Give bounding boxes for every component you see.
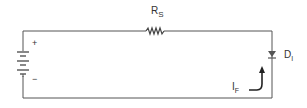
wire-top-right bbox=[164, 31, 272, 50]
current-arrow-head-icon bbox=[259, 66, 265, 73]
resistor-label: RS bbox=[151, 5, 164, 19]
wire-top-left bbox=[23, 31, 146, 51]
battery-symbol bbox=[17, 52, 29, 77]
current-arrow bbox=[249, 72, 262, 90]
diode-symbol bbox=[268, 50, 276, 60]
battery-positive-label: + bbox=[32, 38, 37, 48]
resistor-symbol bbox=[146, 28, 164, 34]
circuit-diagram: RS + − DI IF bbox=[0, 0, 307, 108]
current-label: IF bbox=[232, 81, 239, 94]
diode-label: DI bbox=[284, 49, 293, 62]
battery-negative-label: − bbox=[32, 74, 37, 84]
